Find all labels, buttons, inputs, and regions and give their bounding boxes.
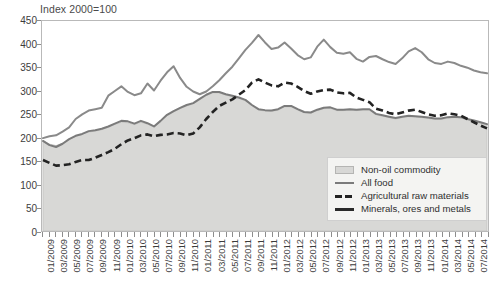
legend-dashed-line-icon (335, 191, 355, 201)
y-axis-tick-label: 450 (3, 15, 37, 26)
x-axis-tick-mark (42, 232, 43, 237)
x-axis-tick-mark (127, 232, 128, 237)
x-axis-tick-label: 09/2011 (256, 239, 266, 272)
x-axis-tick-mark (101, 232, 102, 237)
x-axis-tick-label: 03/2010 (138, 239, 148, 273)
y-axis-tick-mark (36, 232, 41, 233)
x-axis-tick-mark (357, 232, 358, 237)
x-axis-tick-mark (186, 232, 187, 237)
x-axis-tick-label: 09/2013 (413, 239, 423, 273)
x-axis-tick-label: 11/2012 (348, 239, 358, 272)
x-axis-tick-label: 07/2011 (243, 239, 253, 272)
legend-label: Non-oil commodity (361, 164, 440, 175)
x-axis-tick-mark (331, 232, 332, 237)
x-axis-tick-label: 03/2013 (374, 239, 384, 273)
x-axis-tick-mark (462, 232, 463, 237)
x-axis-tick-mark (154, 232, 155, 237)
x-axis-tick-mark (245, 232, 246, 237)
x-axis-tick-mark (377, 232, 378, 237)
x-axis-tick-mark (298, 232, 299, 237)
x-axis-tick-label: 03/2012 (295, 239, 305, 273)
x-axis-tick-mark (252, 232, 253, 237)
x-axis-tick-mark (468, 232, 469, 237)
x-axis-tick-mark (88, 232, 89, 237)
x-axis-tick-mark (383, 232, 384, 237)
x-axis-tick-label: 05/2014 (466, 239, 476, 273)
x-axis-tick-mark (304, 232, 305, 237)
x-axis-tick-mark (226, 232, 227, 237)
x-axis-tick-mark (291, 232, 292, 237)
x-axis-tick-label: 01/2013 (361, 239, 371, 273)
x-axis-tick-label: 05/2010 (151, 239, 161, 273)
x-axis-tick-mark (232, 232, 233, 237)
x-axis-tick-label: 11/2013 (426, 239, 436, 272)
x-axis-tick-mark (62, 232, 63, 237)
x-axis-tick-label: 09/2012 (335, 239, 345, 273)
x-axis-tick-mark (258, 232, 259, 237)
legend-label: Agricultural raw materials (361, 190, 469, 201)
legend-item-minerals-ores-and-metals: Minerals, ores and metals (335, 202, 480, 215)
x-axis-tick-label: 03/2011 (217, 239, 227, 272)
x-axis-tick-mark (422, 232, 423, 237)
y-axis-tick-label: 200 (3, 132, 37, 143)
x-axis-tick-mark (403, 232, 404, 237)
y-axis-tick-label: 250 (3, 109, 37, 120)
x-axis-tick-mark (265, 232, 266, 237)
x-axis-tick-mark (108, 232, 109, 237)
legend-label: Minerals, ores and metals (361, 203, 471, 214)
x-axis-tick-mark (68, 232, 69, 237)
y-axis-tick-label: 150 (3, 156, 37, 167)
x-axis-tick-label: 07/2012 (321, 239, 331, 273)
x-axis-tick-mark (193, 232, 194, 237)
legend-label: All food (361, 177, 393, 188)
x-axis-tick-mark (114, 232, 115, 237)
x-axis-tick-mark (219, 232, 220, 237)
y-axis-tick-label: 400 (3, 38, 37, 49)
x-axis-tick-mark (199, 232, 200, 237)
x-axis-tick-mark (390, 232, 391, 237)
x-axis-tick-label: 07/2009 (85, 239, 95, 273)
x-axis-tick-mark (285, 232, 286, 237)
x-axis-tick-label: 01/2009 (46, 239, 56, 273)
x-axis-tick-label: 05/2011 (230, 239, 240, 272)
x-axis-tick-mark (370, 232, 371, 237)
x-axis-tick-mark (75, 232, 76, 237)
x-axis-tick-label: 07/2010 (164, 239, 174, 273)
x-axis-tick-label: 01/2012 (282, 239, 292, 273)
x-axis-tick-label: 05/2009 (72, 239, 82, 273)
x-axis-tick-mark (429, 232, 430, 237)
x-axis-tick-mark (488, 232, 489, 237)
x-axis-tick-label: 11/2009 (112, 239, 122, 272)
x-axis-tick-label: 05/2012 (308, 239, 318, 273)
x-axis-tick-mark (278, 232, 279, 237)
x-axis-tick-mark (160, 232, 161, 237)
y-axis-tick-label: 350 (3, 62, 37, 73)
legend-swatch-icon (335, 165, 355, 175)
x-axis-tick-mark (337, 232, 338, 237)
x-axis-tick-mark (55, 232, 56, 237)
x-axis-tick-mark (324, 232, 325, 237)
x-axis-tick-mark (436, 232, 437, 237)
chart-legend: Non-oil commodity All food Agricultural … (327, 157, 487, 221)
x-axis-tick-mark (213, 232, 214, 237)
x-axis-tick-mark (94, 232, 95, 237)
x-axis-tick-mark (140, 232, 141, 237)
x-axis-tick-mark (416, 232, 417, 237)
x-axis-tick-mark (147, 232, 148, 237)
x-axis-tick-mark (180, 232, 181, 237)
x-axis-tick-label: 03/2009 (59, 239, 69, 273)
y-axis-tick-label: 50 (3, 203, 37, 214)
x-axis-tick-mark (363, 232, 364, 237)
x-axis-tick-mark (396, 232, 397, 237)
x-axis-tick-mark (49, 232, 50, 237)
legend-item-non-oil-commodity: Non-oil commodity (335, 163, 480, 176)
x-axis-tick-label: 03/2014 (453, 239, 463, 273)
x-axis-tick-label: 07/2014 (479, 239, 489, 273)
x-axis-tick-label: 09/2009 (98, 239, 108, 273)
y-axis-tick-label: 100 (3, 179, 37, 190)
x-axis-tick-label: 07/2013 (400, 239, 410, 273)
x-axis-tick-mark (206, 232, 207, 237)
x-axis-tick-mark (344, 232, 345, 237)
x-axis-tick-label: 09/2010 (177, 239, 187, 273)
x-axis-tick-label: 01/2011 (203, 239, 213, 272)
